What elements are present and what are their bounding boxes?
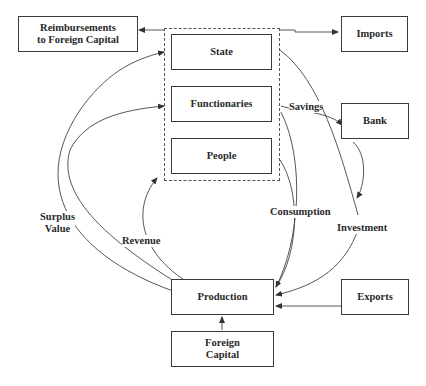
edge-label-savings: Savings [289,101,323,113]
node-state[interactable]: State [171,34,272,70]
node-bank[interactable]: Bank [341,103,409,139]
node-imports[interactable]: Imports [341,16,408,52]
node-foreign-capital-line1: Foreign [205,337,240,349]
edge-to-imports [279,30,338,32]
node-exports[interactable]: Exports [341,279,409,315]
node-state-label: State [210,46,233,58]
edge-bank-to-investment [353,142,364,198]
node-functionaries-label: Functionaries [191,98,253,110]
edge-label-investment: Investment [337,222,387,234]
node-production[interactable]: Production [171,279,274,315]
node-reimbursements-line2: to Foreign Capital [37,34,119,46]
node-exports-label: Exports [357,291,393,303]
node-reimbursements[interactable]: Reimbursements to Foreign Capital [18,16,138,52]
node-production-label: Production [198,291,248,303]
node-imports-label: Imports [356,28,392,40]
node-people-label: People [207,150,237,162]
edge-label-consumption: Consumption [270,206,331,218]
node-foreign-capital[interactable]: Foreign Capital [171,331,274,367]
node-bank-label: Bank [363,115,387,127]
node-reimbursements-line1: Reimbursements [37,22,119,34]
edge-revenue [143,178,202,290]
edge-label-surplus-value-line1: Surplus [40,211,75,223]
node-functionaries[interactable]: Functionaries [171,86,272,122]
node-foreign-capital-line2: Capital [205,349,240,361]
edge-label-surplus-value: Surplus Value [40,211,75,235]
edge-label-surplus-value-line2: Value [40,223,75,235]
edge-label-revenue: Revenue [122,235,161,247]
node-people[interactable]: People [171,138,272,174]
